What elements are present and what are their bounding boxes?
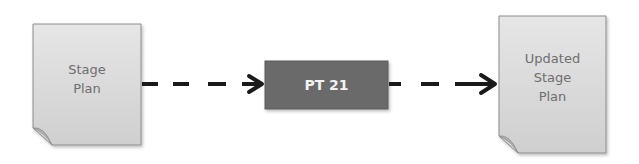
pt21-label: PT 21 (265, 61, 388, 109)
dashed-arrow-1 (142, 76, 262, 92)
dashed-arrow-2 (389, 75, 495, 93)
flow-diagram: Stage Plan PT 21 Updated Stage Plan (0, 0, 639, 164)
stage-plan-label: Stage Plan (33, 24, 141, 134)
updated-stage-plan-label: Updated Stage Plan (499, 16, 606, 138)
